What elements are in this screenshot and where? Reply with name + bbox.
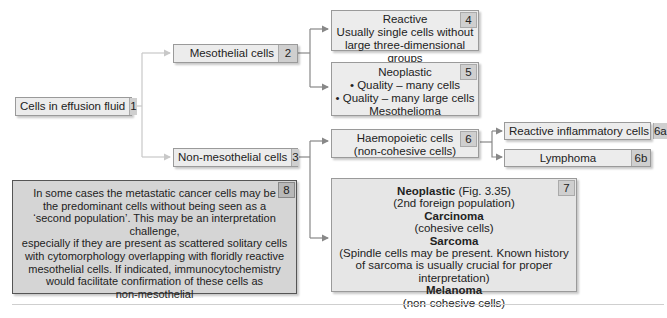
node-text-line: (non-cohesive cells): [332, 145, 478, 158]
node-label: Mesothelial cells: [174, 47, 278, 60]
note-text-line: especially if they are present as scatte…: [13, 237, 296, 250]
node-reactive-inflammatory-cells: Reactive inflammatory cells 6a: [504, 122, 651, 140]
node-text-line: (Spindle cells may be present. Known his…: [332, 247, 576, 259]
node-number: 6b: [631, 150, 650, 166]
node-neoplastic-mesothelial: Neoplastic • Quality – many cells • Qual…: [331, 62, 479, 116]
figure-reference: (Fig. 3.35): [455, 185, 511, 197]
node-number: 7: [558, 180, 575, 196]
heading-sarcoma: Sarcoma: [332, 235, 576, 247]
node-text-line: Mesothelioma: [332, 105, 478, 118]
node-neoplastic-foreign: Neoplastic (Fig. 3.35) (2nd foreign popu…: [331, 178, 577, 292]
node-label: Non-mesothelial cells: [174, 151, 291, 164]
node-lymphoma: Lymphoma 6b: [504, 149, 651, 167]
node-text-line: Usually single cells without: [332, 26, 478, 39]
node-number: 1: [129, 98, 136, 115]
node-number: 6: [460, 131, 477, 147]
node-text-line: of sarcoma is usually crucial for proper…: [332, 259, 576, 284]
heading-melanoma: Melanoma: [332, 284, 576, 296]
node-text-line: Reactive: [332, 13, 478, 26]
node-text-line: (non-cohesive cells): [332, 297, 576, 309]
node-number: 3: [291, 149, 298, 166]
node-mesothelial-cells: Mesothelial cells 2: [173, 44, 298, 63]
heading-neoplastic: Neoplastic: [397, 185, 455, 197]
node-text-line: (2nd foreign population): [332, 197, 576, 209]
node-text-line: Neoplastic (Fig. 3.35): [332, 185, 576, 197]
node-number: 4: [460, 12, 477, 28]
node-label: Cells in effusion fluid: [16, 100, 129, 113]
note-text-line: mesothelial cells. If indicated, immunoc…: [13, 263, 296, 276]
node-number: 2: [278, 45, 297, 62]
note-text-line: In some cases the metastatic cancer cell…: [13, 187, 296, 200]
note-text-line: the predominant cells without being seen…: [13, 200, 296, 213]
note-text-line: ‘second population’. This may be an inte…: [13, 212, 296, 237]
note-text-line: non-mesothelial: [13, 288, 296, 301]
node-text-line: Haemopoietic cells: [332, 132, 478, 145]
node-text-line: Neoplastic: [332, 66, 478, 79]
note-text-line: with cytomorphology overlapping with flo…: [13, 250, 296, 263]
node-number: 6a: [653, 123, 667, 139]
node-haemopoietic-cells: Haemopoietic cells (non-cohesive cells) …: [331, 129, 479, 158]
bottom-divider: [12, 304, 664, 305]
node-reactive: Reactive Usually single cells without la…: [331, 10, 479, 51]
node-label: Lymphoma: [505, 152, 631, 165]
node-text-line: • Quality – many large cells: [332, 92, 478, 105]
node-label: Reactive inflammatory cells: [505, 125, 653, 138]
node-number: 8: [278, 182, 295, 198]
heading-carcinoma: Carcinoma: [332, 210, 576, 222]
note-metastatic-cancer: In some cases the metastatic cancer cell…: [12, 180, 297, 294]
node-non-mesothelial-cells: Non-mesothelial cells 3: [173, 148, 298, 167]
node-cells-in-effusion-fluid: Cells in effusion fluid 1: [15, 97, 132, 116]
node-number: 5: [460, 64, 477, 80]
node-text-line: (cohesive cells): [332, 222, 576, 234]
node-text-line: • Quality – many cells: [332, 79, 478, 92]
note-text-line: would facilitate confirmation of these c…: [13, 275, 296, 288]
